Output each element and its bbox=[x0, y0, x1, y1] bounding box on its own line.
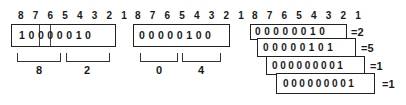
byte-digits: 00000100 bbox=[139, 29, 215, 41]
group-label-low: 2 bbox=[84, 64, 90, 76]
row-value-3: =1 bbox=[370, 60, 383, 72]
group-bracket-high bbox=[17, 53, 61, 62]
group-label-high: 0 bbox=[156, 64, 162, 76]
group-bracket-high bbox=[140, 53, 178, 62]
group-label-low: 4 bbox=[198, 64, 204, 76]
row-value-1: =2 bbox=[351, 26, 364, 38]
group-label-high: 8 bbox=[36, 64, 42, 76]
row-digits-1: 00000010 bbox=[255, 26, 328, 37]
group-bracket-low bbox=[66, 53, 110, 62]
bit-position-header: 8 7 6 5 4 3 2 1 bbox=[252, 10, 364, 21]
byte-digits: 10000010 bbox=[19, 29, 95, 41]
group-bracket-low bbox=[182, 53, 221, 62]
bit-position-header: 8 7 6 5 4 3 2 1 bbox=[18, 10, 130, 21]
row-digits-2: 00000101 bbox=[263, 42, 336, 53]
row-value-2: =5 bbox=[361, 42, 374, 54]
row-digits-3: 000000001 bbox=[272, 60, 345, 71]
row-digits-4: 000000001 bbox=[283, 78, 356, 89]
bit-position-header: 8 7 6 5 4 3 2 1 bbox=[135, 10, 247, 21]
row-value-4: =1 bbox=[382, 78, 395, 90]
